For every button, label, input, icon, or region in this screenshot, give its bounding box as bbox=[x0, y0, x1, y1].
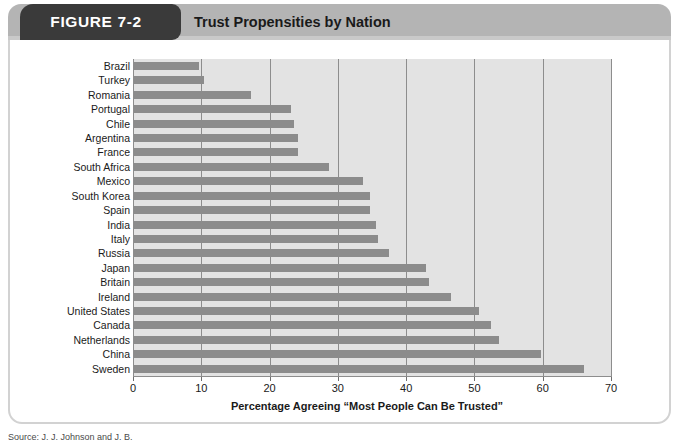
bar-rows-group: BrazilTurkeyRomaniaPortugalChileArgentin… bbox=[8, 59, 611, 376]
x-tick-label-10: 10 bbox=[181, 382, 221, 394]
bar-row: France bbox=[8, 145, 611, 159]
bar-canada bbox=[134, 321, 491, 329]
bar-ireland bbox=[134, 293, 451, 301]
bar-argentina bbox=[134, 134, 298, 142]
bar-turkey bbox=[134, 76, 204, 84]
category-label-canada: Canada bbox=[10, 318, 130, 332]
bar-india bbox=[134, 221, 376, 229]
category-label-japan: Japan bbox=[10, 261, 130, 275]
source-note: Source: J. J. Johnson and J. B. bbox=[8, 432, 508, 442]
bar-row: India bbox=[8, 218, 611, 232]
bar-russia bbox=[134, 249, 389, 257]
category-label-united-states: United States bbox=[10, 304, 130, 318]
bar-row: Sweden bbox=[8, 362, 611, 376]
figure-number-label: FIGURE 7-2 bbox=[50, 13, 141, 31]
chart-canvas: BrazilTurkeyRomaniaPortugalChileArgentin… bbox=[8, 40, 671, 424]
bar-row: Britain bbox=[8, 275, 611, 289]
category-label-chile: Chile bbox=[10, 117, 130, 131]
category-label-portugal: Portugal bbox=[10, 102, 130, 116]
x-tick-label-70: 70 bbox=[591, 382, 631, 394]
category-label-ireland: Ireland bbox=[10, 290, 130, 304]
x-tick-40 bbox=[406, 377, 407, 381]
x-tick-label-40: 40 bbox=[386, 382, 426, 394]
bar-row: Portugal bbox=[8, 102, 611, 116]
bar-netherlands bbox=[134, 336, 499, 344]
bar-row: Japan bbox=[8, 261, 611, 275]
bar-britain bbox=[134, 278, 429, 286]
bar-south-korea bbox=[134, 192, 370, 200]
bar-row: Netherlands bbox=[8, 333, 611, 347]
bar-row: Canada bbox=[8, 318, 611, 332]
bar-row: Chile bbox=[8, 117, 611, 131]
bar-row: Romania bbox=[8, 88, 611, 102]
bar-mexico bbox=[134, 177, 363, 185]
bar-row: Spain bbox=[8, 203, 611, 217]
bar-italy bbox=[134, 235, 378, 243]
category-label-france: France bbox=[10, 145, 130, 159]
bar-row: South Africa bbox=[8, 160, 611, 174]
x-axis-title: Percentage Agreeing “Most People Can Be … bbox=[8, 400, 671, 412]
x-tick-0 bbox=[133, 377, 134, 381]
figure-number-tab: FIGURE 7-2 bbox=[20, 4, 172, 40]
category-label-italy: Italy bbox=[10, 232, 130, 246]
category-label-argentina: Argentina bbox=[10, 131, 130, 145]
category-label-romania: Romania bbox=[10, 88, 130, 102]
bar-south-africa bbox=[134, 163, 329, 171]
bar-portugal bbox=[134, 105, 291, 113]
x-axis-line bbox=[133, 376, 612, 377]
bar-row: Mexico bbox=[8, 174, 611, 188]
category-label-spain: Spain bbox=[10, 203, 130, 217]
bar-row: Italy bbox=[8, 232, 611, 246]
x-tick-10 bbox=[201, 377, 202, 381]
bar-brazil bbox=[134, 62, 199, 70]
x-tick-60 bbox=[543, 377, 544, 381]
bar-row: Russia bbox=[8, 246, 611, 260]
bar-row: Ireland bbox=[8, 290, 611, 304]
bar-france bbox=[134, 148, 298, 156]
category-label-sweden: Sweden bbox=[10, 362, 130, 376]
category-label-china: China bbox=[10, 347, 130, 361]
category-label-india: India bbox=[10, 218, 130, 232]
bar-row: Brazil bbox=[8, 59, 611, 73]
bar-united-states bbox=[134, 307, 479, 315]
bar-spain bbox=[134, 206, 370, 214]
x-tick-70 bbox=[611, 377, 612, 381]
figure-title: Trust Propensities by Nation bbox=[194, 4, 391, 40]
bar-row: Argentina bbox=[8, 131, 611, 145]
bar-china bbox=[134, 350, 541, 358]
x-tick-label-30: 30 bbox=[318, 382, 358, 394]
bar-japan bbox=[134, 264, 426, 272]
x-tick-30 bbox=[338, 377, 339, 381]
x-tick-label-60: 60 bbox=[523, 382, 563, 394]
category-label-south-africa: South Africa bbox=[10, 160, 130, 174]
category-label-russia: Russia bbox=[10, 246, 130, 260]
bar-row: United States bbox=[8, 304, 611, 318]
figure-container: FIGURE 7-2 Trust Propensities by Nation … bbox=[8, 4, 671, 424]
category-label-south-korea: South Korea bbox=[10, 189, 130, 203]
category-label-mexico: Mexico bbox=[10, 174, 130, 188]
x-tick-label-50: 50 bbox=[454, 382, 494, 394]
category-label-britain: Britain bbox=[10, 275, 130, 289]
bar-romania bbox=[134, 91, 251, 99]
x-tick-label-20: 20 bbox=[250, 382, 290, 394]
category-label-turkey: Turkey bbox=[10, 73, 130, 87]
bar-row: China bbox=[8, 347, 611, 361]
bar-row: South Korea bbox=[8, 189, 611, 203]
x-tick-20 bbox=[270, 377, 271, 381]
bar-sweden bbox=[134, 365, 584, 373]
x-tick-label-0: 0 bbox=[113, 382, 153, 394]
bar-row: Turkey bbox=[8, 73, 611, 87]
category-label-netherlands: Netherlands bbox=[10, 333, 130, 347]
category-label-brazil: Brazil bbox=[10, 59, 130, 73]
x-tick-50 bbox=[474, 377, 475, 381]
bar-chile bbox=[134, 120, 294, 128]
